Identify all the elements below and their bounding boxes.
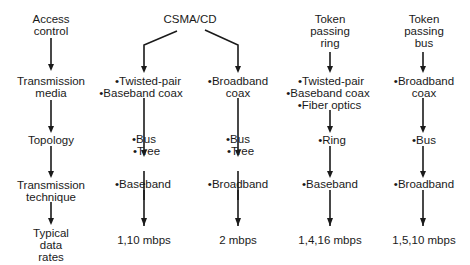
csma-broadband-media: •Broadband coax — [208, 75, 268, 99]
csma-broadband-rate: 2 mbps — [219, 234, 257, 246]
token-bus-technique: •Broadband — [394, 178, 454, 190]
token-bus-media: •Broadband coax — [394, 75, 454, 99]
token-ring-rate: 1,4,16 mbps — [298, 234, 361, 246]
csma-baseband-topology: •Bus •Tree — [128, 133, 160, 157]
csma-broadband-technique: •Broadband — [208, 178, 268, 190]
csma-baseband-technique: •Baseband — [115, 178, 171, 190]
csma-broadband-topology: •Bus •Tree — [222, 133, 254, 157]
label-topology: Topology — [28, 134, 74, 146]
label-transmission-media: Transmission media — [17, 75, 85, 99]
token-ring-topology: •Ring — [318, 134, 346, 146]
csma-baseband-media: •Twisted-pair •Baseband coax — [99, 75, 182, 99]
csma-cd-title: CSMA/CD — [163, 13, 216, 25]
token-ring-technique: •Baseband — [302, 178, 358, 190]
token-ring-media: •Twisted-pair •Baseband coax •Fiber opti… — [286, 75, 369, 111]
label-access-control: Access control — [32, 13, 69, 37]
csma-baseband-rate: 1,10 mbps — [117, 234, 171, 246]
token-bus-title: Token passing bus — [404, 13, 444, 49]
token-bus-topology: •Bus — [412, 134, 436, 146]
label-transmission-technique: Transmission technique — [17, 179, 85, 203]
token-ring-title: Token passing ring — [310, 13, 350, 49]
token-bus-rate: 1,5,10 mbps — [392, 234, 455, 246]
label-typical-data-rates: Typical data rates — [33, 227, 69, 263]
